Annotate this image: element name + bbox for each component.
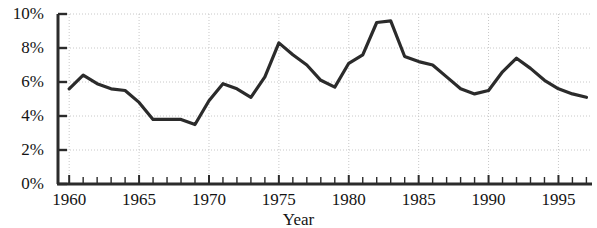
x-axis-tick-label: 1975 — [244, 191, 314, 209]
x-axis-tick-label: 1990 — [454, 191, 524, 209]
x-axis-tick-label-text: 1995 — [541, 190, 575, 209]
y-axis-tick-label-text: 4% — [21, 107, 44, 124]
x-axis-tick-label-text: 1960 — [52, 190, 86, 209]
x-axis-tick-label: 1960 — [34, 191, 104, 209]
y-axis-tick-label-text: 8% — [21, 39, 44, 56]
data-series-line — [69, 21, 586, 125]
x-axis-tick-label-text: 1965 — [122, 190, 156, 209]
x-axis-tick-label-text: 1975 — [262, 190, 296, 209]
x-axis-tick-label: 1980 — [314, 191, 384, 209]
x-axis-tick-label: 1995 — [523, 191, 593, 209]
x-axis-tick-label: 1985 — [384, 191, 454, 209]
y-axis-tick-label-text: 0% — [21, 175, 44, 192]
x-axis-tick-label-text: 1985 — [402, 190, 436, 209]
x-axis-tick-label: 1965 — [104, 191, 174, 209]
x-axis-tick-label: 1970 — [174, 191, 244, 209]
y-axis-tick-label-text: 6% — [21, 73, 44, 90]
x-axis-tick-label-text: 1970 — [192, 190, 226, 209]
gridlines — [58, 14, 592, 184]
line-chart: 0%2%4%6%8%10% 19601965197019751980198519… — [0, 0, 597, 228]
y-axis-tick-label-text: 2% — [21, 141, 44, 158]
y-axis-tick-label-text: 10% — [13, 5, 44, 22]
x-axis-tick-label-text: 1990 — [472, 190, 506, 209]
x-axis-tick-label-text: 1980 — [332, 190, 366, 209]
x-axis-title: Year — [0, 211, 597, 228]
